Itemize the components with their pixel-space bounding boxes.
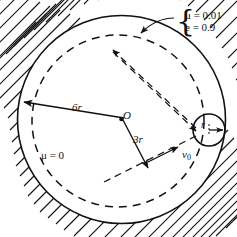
velocity-subscript: 0 [187,153,191,162]
velocity-arrow [148,147,178,162]
radius-6r-label: 6r [72,102,82,113]
ball-radius-label: r [201,120,205,130]
annotation-leader-line [141,18,174,33]
mechanics-figure: { μ = 0.01 e = 0.9 μ = 0 6r 3r r O v0 [0,0,237,237]
radius-3r-label: 3r [133,134,143,145]
interior-friction-label: μ = 0 [41,150,64,161]
velocity-label: v0 [182,149,191,162]
inner-dashed-circle [32,35,204,207]
restitution-label: e = 0.9 [185,22,215,33]
wall-friction-label: μ = 0.01 [185,10,222,21]
center-label: O [123,110,131,121]
